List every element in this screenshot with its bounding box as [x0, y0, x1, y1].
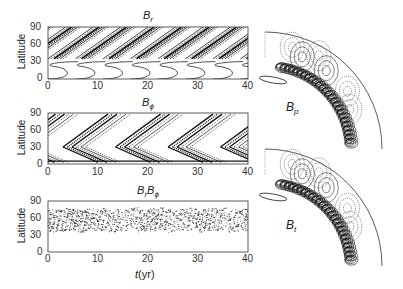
plot-brbphi [48, 201, 249, 252]
plot-bt-meridional [259, 149, 382, 266]
plot-canvas [0, 0, 403, 289]
plot-bp-meridional [259, 32, 382, 149]
plot-bphi [11, 113, 394, 164]
plot-br [0, 27, 328, 79]
